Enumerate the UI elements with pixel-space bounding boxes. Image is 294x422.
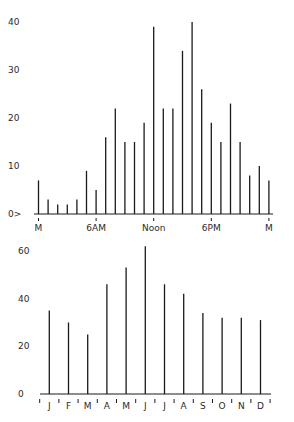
x-tick-label: 6AM	[86, 223, 106, 233]
y-tick-label: 60	[18, 246, 30, 256]
x-tick-label: 6PM	[202, 223, 221, 233]
y-tick-label: 10	[8, 161, 20, 171]
x-tick-label: Noon	[142, 223, 165, 233]
month-label: N	[238, 401, 245, 411]
hourly-chart: 0>10203040M6AMNoon6PMM	[0, 0, 294, 240]
month-label: A	[104, 401, 111, 411]
y-tick-label: 0>	[8, 209, 21, 219]
month-label: O	[219, 401, 226, 411]
month-label: S	[200, 401, 206, 411]
month-label: F	[66, 401, 71, 411]
x-tick-label: M	[35, 223, 43, 233]
month-label: A	[181, 401, 188, 411]
month-label: M	[122, 401, 130, 411]
monthly-chart-svg: 0204060JFMAMJJASOND	[0, 240, 294, 422]
y-tick-label: 30	[8, 65, 20, 75]
y-tick-label: 20	[8, 113, 20, 123]
month-label: J	[143, 401, 147, 411]
month-label: J	[162, 401, 166, 411]
month-label: M	[84, 401, 92, 411]
y-tick-label: 40	[18, 294, 30, 304]
hourly-chart-svg: 0>10203040M6AMNoon6PMM	[0, 0, 294, 240]
y-tick-label: 20	[18, 341, 30, 351]
y-tick-label: 40	[8, 17, 20, 27]
month-label: J	[47, 401, 51, 411]
y-tick-label: 0	[18, 389, 24, 399]
x-tick-label: M	[265, 223, 273, 233]
month-label: D	[257, 401, 264, 411]
monthly-chart: 0204060JFMAMJJASOND	[0, 240, 294, 422]
